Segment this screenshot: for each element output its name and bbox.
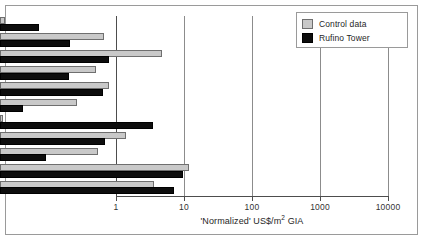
x-tick-label: 10	[179, 202, 189, 212]
tick-100	[252, 196, 253, 201]
bar-row: Maintenance	[0, 131, 272, 147]
tick-10000	[388, 196, 389, 201]
bar-rufino-tower	[0, 105, 23, 112]
bar-rufino-tower	[0, 187, 174, 194]
tick-1000	[320, 196, 321, 201]
bar-row: Construction (active)	[0, 163, 272, 179]
x-tick-label: 100	[245, 202, 260, 212]
bar-rufino-tower	[0, 154, 46, 161]
legend-item-control: Control data	[302, 17, 402, 31]
bar-row: Churn	[0, 49, 272, 65]
bar-row: Cleaning	[0, 65, 272, 81]
bar-row: Demolition	[0, 16, 272, 32]
bar-rufino-tower	[0, 56, 109, 63]
chart-legend: Control data Rufino Tower	[296, 12, 408, 48]
bar-rufino-tower	[0, 89, 103, 96]
chart-figure: 110100100010000 DemolitionInsurancesChur…	[0, 0, 423, 240]
bar-rufino-tower	[0, 73, 69, 80]
x-axis-title: 'Normalized' US$/m2 GIA	[116, 214, 388, 226]
bar-row: Insurances	[0, 32, 272, 48]
bar-row: Replacement	[0, 147, 272, 163]
bar-row: Construction (passive)	[0, 180, 272, 196]
bar-row: Water and sewerage	[0, 98, 272, 114]
x-tick-label: 10000	[376, 202, 401, 212]
legend-item-rufino: Rufino Tower	[302, 31, 402, 45]
tick-10	[184, 196, 185, 201]
legend-label-control: Control data	[319, 19, 367, 29]
bar-rufino-tower	[0, 138, 105, 145]
legend-swatch-control-icon	[302, 19, 313, 29]
bar-rufino-tower	[0, 122, 153, 129]
bar-row: Energy	[0, 114, 272, 130]
x-tick-label: 1000	[310, 202, 330, 212]
legend-swatch-rufino-icon	[302, 33, 313, 43]
bar-rufino-tower	[0, 40, 70, 47]
legend-label-rufino: Rufino Tower	[319, 33, 370, 43]
bar-rufino-tower	[0, 24, 39, 31]
x-axis-title-text: 'Normalized' US$/m2 GIA	[201, 216, 304, 226]
x-tick-label: 1	[114, 202, 119, 212]
bar-rufino-tower	[0, 171, 183, 178]
bar-row: Caretaking/security	[0, 81, 272, 97]
tick-1	[116, 196, 117, 201]
